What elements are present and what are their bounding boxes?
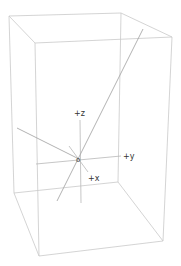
back-left-edge — [9, 16, 14, 193]
origin-label: o — [76, 156, 80, 164]
x-axis-label: +x — [88, 174, 100, 183]
back-right-edge — [118, 13, 121, 182]
box-front-face — [35, 37, 172, 256]
depth-edge-bottom-left — [14, 193, 39, 256]
y-axis-label: +y — [123, 152, 135, 161]
front-bottom-edge — [39, 241, 163, 256]
depth-edge-top-left — [9, 16, 35, 43]
diagonal-line-left — [17, 128, 79, 159]
diagonal-line-main — [57, 29, 143, 201]
3d-diagram-canvas: +z +y +x o — [0, 0, 181, 266]
depth-edge-top-right — [121, 13, 172, 37]
depth-edge-bottom-right — [118, 182, 163, 241]
front-left-edge — [35, 43, 39, 256]
front-top-edge — [35, 37, 172, 43]
back-top-edge — [9, 13, 121, 16]
z-axis-label: +z — [74, 109, 85, 118]
front-right-edge — [163, 37, 172, 241]
